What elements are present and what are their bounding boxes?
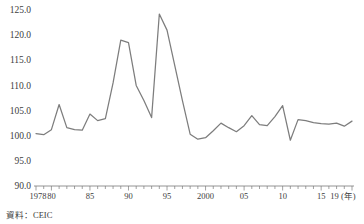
- x-axis-tick-label: 95: [163, 191, 172, 201]
- x-axis-tick-label: 19 (年): [330, 191, 355, 201]
- x-axis-tick-label: 85: [86, 191, 95, 201]
- x-axis-tick-marks: [36, 186, 352, 191]
- y-axis-tick-labels: 90.095.0100.0105.0110.0115.0120.0125.0: [10, 5, 32, 191]
- x-axis-tick-label: 2000: [197, 191, 214, 201]
- x-axis-tick-label: 10: [278, 191, 287, 201]
- chart-figure: 90.095.0100.0105.0110.0115.0120.0125.0 1…: [0, 0, 364, 224]
- x-axis-tick-label: 05: [240, 191, 249, 201]
- x-axis-tick-label: 1978: [30, 191, 47, 201]
- source-note: 資料：CEIC: [6, 210, 53, 220]
- x-axis-tick-label: 80: [47, 191, 56, 201]
- x-axis-tick-label: 15: [317, 191, 326, 201]
- chart-canvas: 90.095.0100.0105.0110.0115.0120.0125.0 1…: [0, 0, 364, 224]
- y-axis-tick-label: 115.0: [10, 55, 31, 65]
- y-axis-tick-label: 125.0: [10, 5, 32, 15]
- x-axis-tick-labels: 197880859095200005101519 (年): [30, 191, 356, 201]
- plot-area: [36, 14, 352, 140]
- y-axis-tick-label: 90.0: [14, 181, 31, 191]
- data-series-line: [36, 14, 352, 140]
- x-axis: 197880859095200005101519 (年): [30, 186, 356, 201]
- y-axis-tick-label: 105.0: [10, 106, 32, 116]
- y-axis-tick-label: 120.0: [10, 30, 32, 40]
- y-axis-tick-label: 110.0: [10, 81, 31, 91]
- y-axis-tick-label: 100.0: [10, 131, 32, 141]
- y-axis-tick-label: 95.0: [14, 156, 31, 166]
- x-axis-tick-label: 90: [124, 191, 133, 201]
